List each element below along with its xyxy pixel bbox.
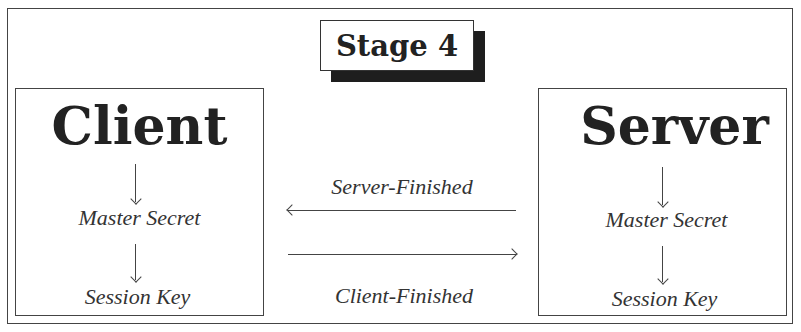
client-finished-arrow xyxy=(288,254,516,255)
client-box: Client Master Secret Session Key xyxy=(15,88,264,316)
server-finished-label: Server-Finished xyxy=(272,174,532,200)
server-master-secret: Master Secret xyxy=(543,207,790,233)
server-title: Server xyxy=(551,95,798,156)
client-title: Client xyxy=(16,95,263,156)
server-arrow-2-head xyxy=(657,273,668,284)
server-session-key: Session Key xyxy=(541,286,788,312)
client-session-key: Session Key xyxy=(14,284,261,310)
client-master-secret: Master Secret xyxy=(16,205,263,231)
client-arrow-1-head xyxy=(130,193,141,204)
client-finished-label: Client-Finished xyxy=(274,283,534,309)
server-box: Server Master Secret Session Key xyxy=(538,88,787,316)
client-arrow-2-head xyxy=(130,271,141,282)
server-finished-arrow xyxy=(288,210,516,211)
stage-title: Stage 4 xyxy=(320,20,474,71)
server-arrow-1-head xyxy=(657,196,668,207)
